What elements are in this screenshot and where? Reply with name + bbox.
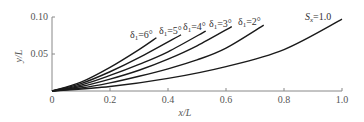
x-tick-label-0.8: 0.8 — [278, 94, 291, 105]
x-tick-label-1.0: 1.0 — [336, 94, 349, 105]
y-axis-label: y/L — [13, 49, 24, 63]
curve-label: δ1=4° — [183, 21, 206, 34]
curve-label: Sx=1.0 — [305, 11, 331, 24]
x-tick-label-0.4: 0.4 — [162, 94, 175, 105]
y-tick-label-0.05: 0.05 — [31, 48, 49, 59]
chart: 0.10 0.05 0 0.2 0.4 0.6 0.8 1.0 x/L y/L … — [0, 0, 364, 122]
x-axis-label: x/L — [178, 107, 192, 118]
curve-labels-group: δ1=6°δ1=5°δ1=4°δ1=3°δ1=2°Sx=1.0 — [130, 11, 331, 42]
curve-δ1=4° — [52, 31, 206, 91]
curve-label: δ1=2° — [238, 16, 261, 29]
x-tick-label-0.6: 0.6 — [220, 94, 233, 105]
curve-label: δ1=6° — [130, 29, 153, 42]
x-tick-label-0: 0 — [50, 94, 55, 105]
x-tick-label-0.2: 0.2 — [104, 94, 117, 105]
y-tick-label-0.10: 0.10 — [31, 11, 49, 22]
